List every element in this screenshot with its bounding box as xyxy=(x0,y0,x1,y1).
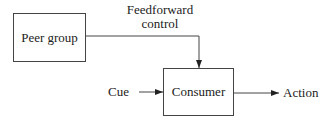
consumer-label: Consumer xyxy=(172,84,225,100)
feedforward-arrow xyxy=(85,36,199,68)
consumer-node: Consumer xyxy=(163,68,234,116)
feedforward-label: Feedforward control xyxy=(112,3,208,31)
peer-group-node: Peer group xyxy=(13,13,86,62)
feedforward-line2: control xyxy=(112,17,208,31)
peer-group-label: Peer group xyxy=(21,30,78,46)
cue-label: Cue xyxy=(108,85,129,99)
feedforward-line1: Feedforward xyxy=(112,3,208,17)
action-label: Action xyxy=(283,86,318,100)
